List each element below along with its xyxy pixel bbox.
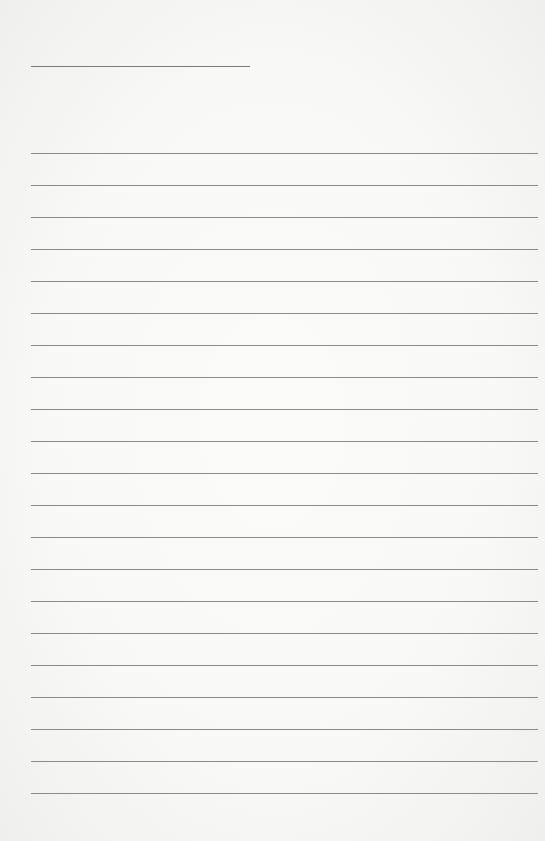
ruled-line: [31, 249, 538, 250]
ruled-line: [31, 793, 538, 794]
ruled-line: [31, 729, 538, 730]
ruled-line: [31, 345, 538, 346]
ruled-line: [31, 409, 538, 410]
ruled-line: [31, 537, 538, 538]
ruled-line: [31, 185, 538, 186]
ruled-line: [31, 505, 538, 506]
ruled-line: [31, 281, 538, 282]
lined-paper-page: [0, 0, 545, 841]
ruled-line: [31, 473, 538, 474]
ruled-line: [31, 313, 538, 314]
ruled-line: [31, 633, 538, 634]
ruled-line: [31, 761, 538, 762]
ruled-line: [31, 153, 538, 154]
ruled-line: [31, 665, 538, 666]
ruled-line: [31, 377, 538, 378]
header-name-line: [31, 66, 250, 67]
ruled-line: [31, 697, 538, 698]
ruled-line: [31, 569, 538, 570]
ruled-line: [31, 441, 538, 442]
ruled-line: [31, 217, 538, 218]
ruled-line: [31, 601, 538, 602]
